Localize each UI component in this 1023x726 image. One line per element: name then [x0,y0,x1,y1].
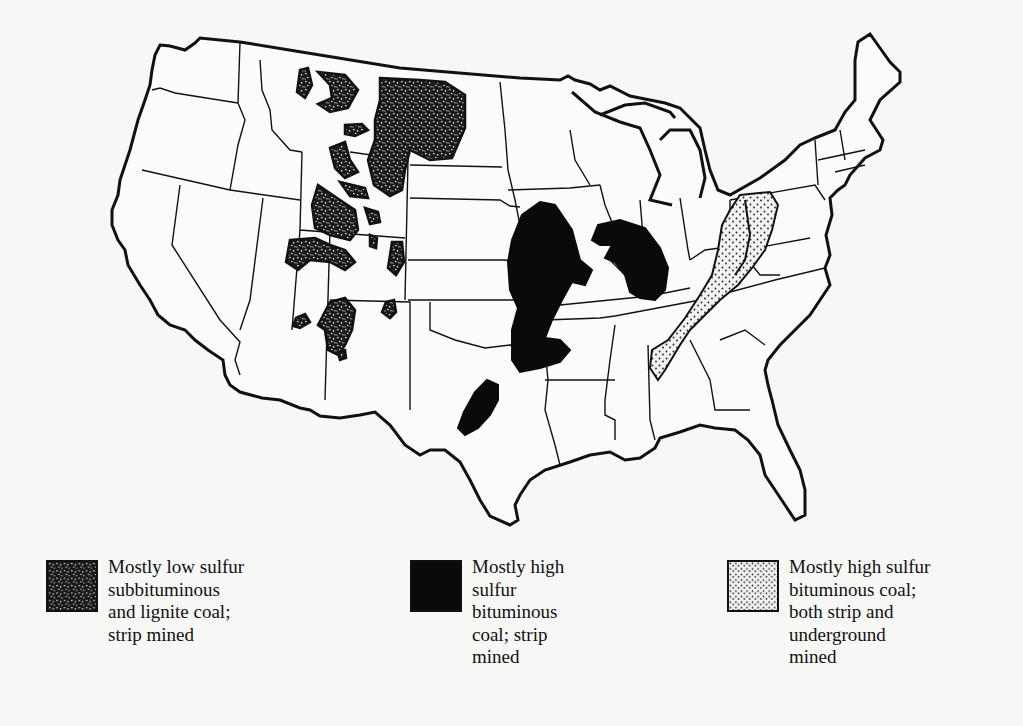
us-coal-map [0,0,1023,540]
legend-line: both strip and [789,601,930,624]
legend-line: Mostly high [472,556,564,579]
legend-line: Mostly low sulfur [108,556,244,579]
legend-line: sulfur [472,579,564,602]
speckled-swatch-icon [46,560,98,612]
stippled-swatch-icon [727,560,779,612]
legend-line: mined [789,646,930,669]
legend-label: Mostly high sulfur bituminous coal; both… [789,556,930,669]
legend-item-high-sulfur-strip: Mostly high sulfur bituminous coal; stri… [410,556,564,669]
legend-line: bituminous coal; [789,579,930,602]
solid-black-swatch-icon [410,560,462,612]
legend-line: strip mined [108,624,244,647]
legend-line: bituminous [472,601,564,624]
legend-line: underground [789,624,930,647]
legend-line: mined [472,646,564,669]
legend-label: Mostly high sulfur bituminous coal; stri… [472,556,564,669]
legend-line: subbituminous [108,579,244,602]
legend-line: Mostly high sulfur [789,556,930,579]
legend-item-low-sulfur: Mostly low sulfur subbituminous and lign… [46,556,244,646]
legend-label: Mostly low sulfur subbituminous and lign… [108,556,244,646]
legend-item-high-sulfur-bituminous: Mostly high sulfur bituminous coal; both… [727,556,930,669]
legend-line: and lignite coal; [108,601,244,624]
legend-line: coal; strip [472,624,564,647]
us-outline [112,34,900,525]
